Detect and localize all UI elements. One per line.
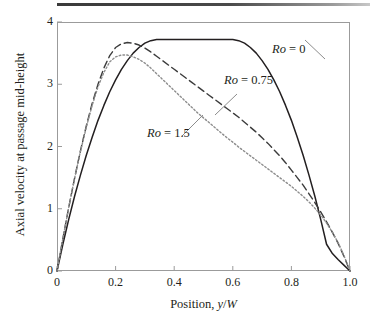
series-annotation-ro075-eq: = xyxy=(238,73,251,87)
y-tick-label: 1 xyxy=(31,201,53,216)
top-divider-rule xyxy=(57,3,370,6)
series-annotation-ro15-value: 1.5 xyxy=(174,126,190,140)
x-axis-title: Position, y/W xyxy=(57,297,350,312)
series-annotation-ro075: Ro = 0.75 xyxy=(224,73,273,88)
x-tick-label: 0.6 xyxy=(216,275,250,290)
chart-plot-area xyxy=(57,22,350,271)
series-annotation-ro15-eq: = xyxy=(161,126,174,140)
figure-container: 0 1 2 3 4 0 0.2 0.4 0.6 0.8 1.0 Position… xyxy=(0,0,370,321)
y-axis-title: Axial velocity at passage mid-height xyxy=(13,15,28,275)
series-annotation-ro075-value: 0.75 xyxy=(251,73,273,87)
series-annotation-ro075-symbol: Ro xyxy=(224,73,238,87)
leader-line-ro075 xyxy=(215,94,237,115)
y-tick-label: 2 xyxy=(31,139,53,154)
x-axis-title-var-w: W xyxy=(226,297,236,311)
series-annotation-ro15-symbol: Ro xyxy=(147,126,161,140)
x-tick-label: 0.2 xyxy=(99,275,133,290)
leader-line-ro0 xyxy=(305,40,325,59)
series-annotation-ro0-eq: = xyxy=(286,42,299,56)
series-annotation-ro0-symbol: Ro xyxy=(272,42,286,56)
y-tick-label: 4 xyxy=(31,14,53,29)
axis-ticks-group xyxy=(57,22,350,271)
x-tick-label: 1.0 xyxy=(333,275,367,290)
x-tick-label: 0.8 xyxy=(274,275,308,290)
x-axis-title-prefix: Position, xyxy=(170,297,217,311)
x-tick-label: 0.4 xyxy=(157,275,191,290)
series-annotation-ro0: Ro = 0 xyxy=(272,42,305,57)
series-annotation-ro15: Ro = 1.5 xyxy=(147,126,190,141)
series-group xyxy=(57,39,350,271)
series-line-dashed xyxy=(57,43,350,271)
series-annotation-ro0-value: 0 xyxy=(299,42,305,56)
x-tick-label: 0 xyxy=(40,275,74,290)
y-tick-label: 3 xyxy=(31,76,53,91)
